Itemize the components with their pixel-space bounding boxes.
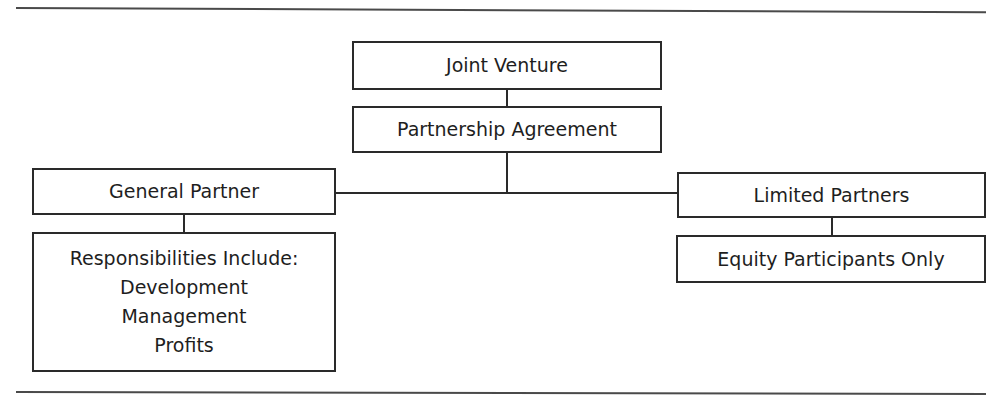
- limited-partners-box: Limited Partners: [677, 172, 986, 218]
- connector-gp-resp: [183, 215, 185, 232]
- general-partner-box: General Partner: [32, 168, 336, 215]
- responsibilities-heading: Responsibilities Include:: [70, 244, 299, 273]
- responsibility-item: Development: [120, 273, 248, 302]
- joint-venture-label: Joint Venture: [446, 51, 568, 80]
- responsibility-item: Management: [121, 302, 246, 331]
- responsibility-item: Profits: [154, 331, 213, 360]
- joint-venture-box: Joint Venture: [352, 41, 662, 90]
- partnership-agreement-label: Partnership Agreement: [397, 115, 617, 144]
- general-partner-label: General Partner: [109, 177, 259, 206]
- responsibilities-box: Responsibilities Include: Development Ma…: [32, 232, 336, 372]
- bottom-rule: [16, 391, 986, 395]
- connector-jv-pa: [506, 90, 508, 106]
- connector-pa-branch: [506, 153, 508, 194]
- connector-lp-equity: [831, 218, 833, 235]
- equity-participants-label: Equity Participants Only: [717, 245, 944, 274]
- connector-branch-horizontal: [336, 192, 677, 194]
- limited-partners-label: Limited Partners: [754, 181, 910, 210]
- equity-participants-box: Equity Participants Only: [676, 235, 986, 283]
- partnership-agreement-box: Partnership Agreement: [352, 106, 662, 153]
- top-rule: [16, 7, 986, 13]
